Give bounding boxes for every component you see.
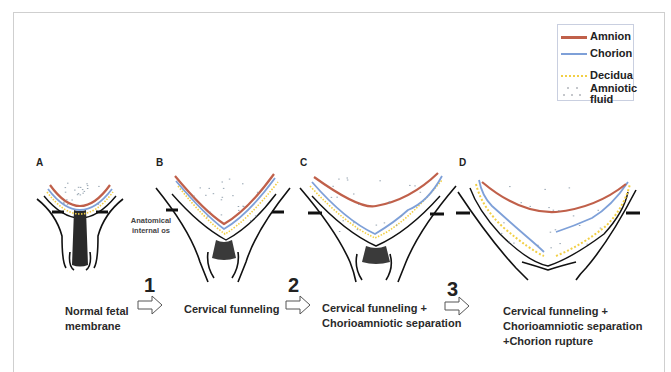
- amniotic-fluid-swatch-icon: [561, 85, 587, 99]
- decidua-swatch-icon: [561, 75, 587, 77]
- panel-a-amnion: [50, 185, 110, 206]
- legend-label-line: fluid: [590, 93, 613, 105]
- panel-label-c: C: [300, 157, 307, 168]
- legend-item-chorion: Chorion: [558, 47, 633, 63]
- panel-d-uterine-wall: [458, 188, 636, 280]
- caption-stage-d: Cervical funneling + Chorioamniotic sepa…: [503, 304, 642, 349]
- legend: Amnion Chorion Decidua Amnioticfluid: [557, 24, 634, 101]
- panel-b-amniotic-fluid: [193, 179, 258, 221]
- panel-a-drawing: [37, 183, 123, 270]
- step-number-3: 3: [447, 278, 458, 301]
- panel-d-chorion-left: [479, 180, 544, 252]
- caption-line: Cervical funneling: [184, 303, 279, 315]
- panel-b-internal-os-markers: [166, 210, 284, 212]
- panel-label-a: A: [36, 157, 43, 168]
- annotation-line: Anatomical: [131, 216, 171, 225]
- caption-stage-b: Cervical funneling: [184, 302, 279, 317]
- caption-line: Cervical funneling +: [322, 302, 427, 314]
- step-number-2: 2: [288, 274, 299, 297]
- legend-item-amnion: Amnion: [558, 30, 633, 46]
- panel-label-d: D: [459, 157, 466, 168]
- caption-line: membrane: [65, 320, 121, 332]
- caption-line: Chorioamniotic separation: [503, 320, 642, 332]
- panel-label-b: B: [156, 157, 163, 168]
- amnion-swatch-icon: [561, 36, 587, 39]
- panel-b-cervical-canal: [212, 240, 236, 260]
- caption-stage-c: Cervical funneling + Chorioamniotic sepa…: [322, 301, 461, 331]
- legend-label: Chorion: [590, 47, 632, 60]
- panel-d-drawing: [456, 180, 640, 280]
- internal-os-annotation: Anatomical internal os: [128, 216, 174, 236]
- panel-c-amniotic-fluid: [331, 178, 421, 232]
- chorion-swatch-icon: [561, 53, 587, 55]
- panel-c-amnion: [314, 173, 438, 206]
- legend-label: Decidua: [590, 69, 633, 82]
- panel-b-drawing: [156, 174, 290, 282]
- panel-b-uterine-wall: [156, 188, 290, 282]
- caption-line: Normal fetal: [65, 305, 129, 317]
- panel-a-cervical-canal: [72, 210, 88, 267]
- caption-line: Chorioamniotic separation: [322, 317, 461, 329]
- caption-line: Cervical funneling +: [503, 305, 608, 317]
- legend-label-amniotic-fluid: Amnioticfluid: [590, 83, 637, 105]
- step-number-1: 1: [144, 274, 155, 297]
- panel-d-amnion: [482, 182, 626, 212]
- legend-item-amniotic-fluid: Amnioticfluid: [558, 83, 633, 101]
- arrow-1-icon: [138, 296, 162, 314]
- arrow-2-icon: [286, 296, 310, 314]
- panel-c-drawing: [300, 173, 456, 282]
- panel-c-cervical-canal: [362, 246, 390, 264]
- caption-stage-a: Normal fetal membrane: [65, 304, 129, 334]
- caption-line: +Chorion rupture: [503, 335, 593, 347]
- legend-label: Amnion: [590, 30, 631, 43]
- annotation-line: internal os: [132, 226, 170, 235]
